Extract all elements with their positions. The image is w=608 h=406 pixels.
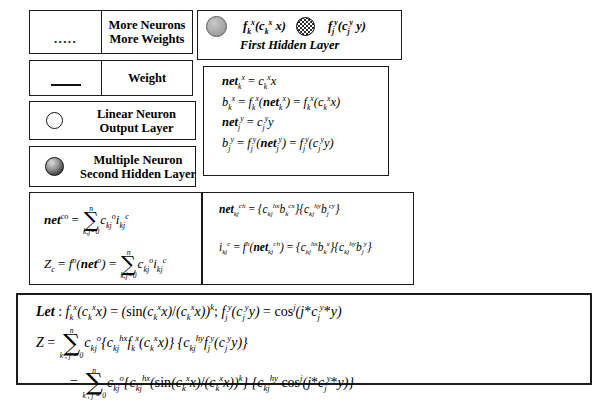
summation-symbol: n ∑ k , j = 0 [60, 327, 84, 360]
shaded-circle-glyph [45, 157, 64, 176]
hidden-eq-2: ikjc = fh(netkjch) = {ckjhxbkx}{ckjhybjy… [219, 241, 413, 253]
formula-fx: fkx(ckx x) [243, 19, 286, 35]
activation-eq-2: bkx = fkx(netkx) = fkx(ckxx) [222, 95, 388, 110]
first-hidden-layer-caption: First Hidden Layer [240, 38, 401, 54]
hatched-circle-icon [296, 17, 315, 36]
activation-equations-panel: netkx = ckxx bkx = fkx(netkx) = fkx(ckxx… [203, 66, 389, 176]
open-circle-icon [30, 102, 78, 139]
summation-symbol: n ∑ k , j = 0 [82, 367, 106, 400]
derivation-line-1: Let : fkx(ckxx) = (sin(ckxx)/(ckxx))k; f… [36, 304, 590, 320]
legend-item-weight: Weight [29, 60, 193, 96]
activation-eq-4: bjy = fjy(netjy) = fjy(cjyy) [222, 136, 388, 151]
open-circle-glyph [46, 112, 63, 129]
legend-label-linear-neuron: Linear Neuron Output Layer [78, 102, 195, 139]
gray-circle-icon [206, 16, 227, 37]
hidden-equations-panel: netkjch = {ckjhxbkcx}{ckjhybjcy} ikjc = … [202, 192, 414, 285]
legend-item-multiple-neuron: Multiple Neuron Second Hidden Layer [29, 146, 196, 187]
derivation-line-3: = n ∑ k , j = 0 ckjo{ckjhx(sin(ckxx)/(ck… [36, 367, 590, 400]
legend-item-more-neurons: ..... More Neurons More Weights [29, 10, 193, 54]
derivation-line-2: Z = n ∑ k , j = 0 ckjo{ckjhxfkx(ckxx)} {… [36, 327, 590, 360]
dotted-line-icon: ..... [30, 11, 102, 53]
legend-item-linear-neuron: Linear Neuron Output Layer [29, 101, 196, 140]
legend-label-weight: Weight [102, 61, 192, 95]
legend-label-line2: Output Layer [100, 121, 174, 135]
first-hidden-layer-formula-row: fkx(ckx x) fjy(cjy y) [206, 16, 401, 37]
activation-eq-1: netkx = ckxx [222, 74, 388, 89]
solid-line-icon [30, 61, 102, 95]
hidden-eq-1: netkjch = {ckjhxbkcx}{ckjhybjcy} [219, 203, 413, 215]
formula-fy: fjy(cjy y) [328, 19, 366, 35]
legend-label-line1: Linear Neuron [97, 107, 176, 121]
summation-symbol: n ∑ k,j=0 [121, 249, 137, 279]
legend-label-line1: More Neurons [109, 18, 186, 32]
activation-eq-3: netjy = cjyy [222, 115, 388, 130]
output-eq-2: Zc = fo(neto) = n ∑ k,j=0 ckjoikjc [44, 249, 201, 279]
first-hidden-layer-panel: fkx(ckx x) fjy(cjy y) First Hidden Layer [197, 10, 402, 60]
summation-symbol: n ∑ k,j=0 [83, 205, 99, 235]
derivation-panel: Let : fkx(ckxx) = (sin(ckxx)/(ckxx))k; f… [16, 293, 592, 385]
weight-line-glyph [51, 84, 81, 86]
legend-label-line1: Weight [128, 71, 166, 85]
legend-label-line1: Multiple Neuron [93, 153, 182, 167]
legend-label-multiple-neuron: Multiple Neuron Second Hidden Layer [78, 147, 198, 186]
figure-canvas: ..... More Neurons More Weights Weight L [0, 0, 608, 406]
output-equations-panel: netco = n ∑ k,j=0 ckjoikjc Zc = fo(neto)… [29, 192, 202, 285]
legend-label-line2: Second Hidden Layer [80, 167, 196, 181]
shaded-circle-icon [30, 147, 78, 186]
output-eq-1: netco = n ∑ k,j=0 ckjoikjc [44, 205, 201, 235]
legend-label-more-neurons: More Neurons More Weights [102, 11, 192, 53]
legend-label-line2: More Weights [110, 32, 185, 46]
